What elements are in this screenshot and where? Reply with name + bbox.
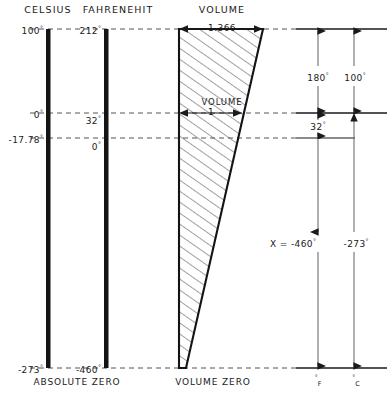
fahrenheit-freezing-value: 32°: [86, 114, 101, 126]
degree-symbol-icon: °: [98, 24, 101, 31]
dimension-x-460-label: X = -460°: [270, 237, 316, 249]
dimension-100-label: 100°: [344, 71, 365, 83]
volume-wedge: [179, 29, 263, 368]
dimension-32-label: 32°: [310, 120, 325, 132]
fahrenheit-header: FAHRENEHIT: [83, 4, 154, 15]
celsius-scale-bar: [46, 29, 51, 368]
celsius-header: CELSIUS: [24, 4, 71, 15]
absolute-zero-footer: ABSOLUTE ZERO: [33, 377, 120, 387]
celsius-absolute-zero-value: -273°: [18, 363, 43, 375]
axis-label-celsius: °C: [352, 373, 360, 388]
degree-symbol-icon: °: [40, 108, 43, 115]
reference-lines: [30, 29, 300, 368]
degree-symbol-icon: °: [98, 114, 101, 121]
degree-symbol-icon: °: [98, 140, 101, 147]
celsius-boiling-value: 100°: [22, 24, 43, 36]
volume-zero-footer: VOLUME ZERO: [175, 377, 251, 387]
degree-symbol-icon: °: [98, 363, 101, 370]
dimension-180-label: 180°: [307, 71, 328, 83]
degree-symbol-icon: °: [363, 71, 366, 78]
degree-symbol-icon: °: [40, 133, 43, 140]
degree-symbol-icon: °: [323, 120, 326, 127]
degree-symbol-icon: °: [326, 71, 329, 78]
dimension-273-arrow-top: [350, 113, 357, 122]
degree-symbol-icon: °: [366, 237, 369, 244]
celsius-freezing-value: 0°: [34, 108, 43, 120]
fahrenheit-scale-bar: [104, 29, 109, 368]
degree-symbol-icon: °: [40, 24, 43, 31]
volume-top-value: 1.366: [208, 23, 236, 33]
diagram-canvas: [0, 0, 387, 402]
fahrenheit-zero-value: 0°: [92, 140, 101, 152]
thermometer-volume-diagram: CELSIUS FAHRENEHIT VOLUME 100° 0° -17.78…: [0, 0, 387, 402]
volume-header: VOLUME: [199, 4, 245, 15]
degree-symbol-icon: °: [313, 237, 316, 244]
fahrenheit-absolute-zero-value: -460°: [76, 363, 101, 375]
celsius-zero-f-equivalent-value: -17.78°: [9, 133, 43, 145]
degree-symbol-icon: °: [40, 363, 43, 370]
fahrenheit-boiling-value: 212°: [80, 24, 101, 36]
volume-inner-value: 1: [208, 107, 214, 117]
axis-label-fahrenheit: °F: [315, 373, 322, 388]
dimension-273-label: -273°: [343, 237, 368, 249]
volume-inner-label: VOLUME: [202, 97, 243, 107]
